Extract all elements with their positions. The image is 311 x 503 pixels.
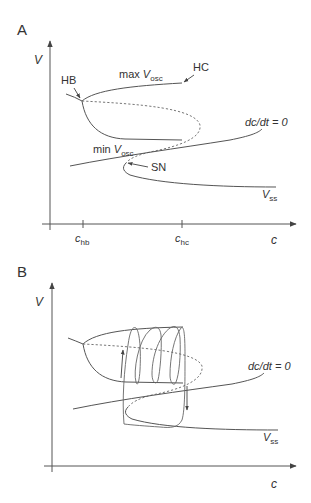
max-vosc-label: max Vosc: [119, 68, 163, 83]
panel-b: B V c dc/dt = 0 Vss: [17, 263, 296, 491]
hb-label: HB: [61, 74, 76, 86]
vss-label-b: Vss: [263, 431, 278, 446]
min-vosc-curve: [82, 101, 182, 140]
nullcline-label-b: dc/dt = 0: [248, 360, 291, 372]
max-vosc-curve: [82, 83, 182, 101]
sn-label: SN: [151, 161, 166, 173]
panel-label-b: B: [17, 263, 27, 280]
y-axis-label-a: V: [34, 53, 43, 67]
min-vosc-label: min Vosc: [93, 143, 134, 158]
vss-label-a: Vss: [262, 188, 277, 203]
trajectory-up-arrow: [121, 350, 123, 378]
nullcline-label-a: dc/dt = 0: [245, 116, 288, 128]
sn-arrow: [128, 163, 148, 167]
hc-label: HC: [193, 61, 209, 73]
tick-label-chc: chc: [175, 232, 189, 247]
tick-label-chb: chb: [75, 232, 90, 247]
x-axis-label-b: c: [271, 477, 277, 491]
hc-arrow: [184, 75, 194, 82]
y-axis-label-b: V: [35, 295, 44, 309]
min-vosc-curve-b: [83, 344, 183, 383]
panel-a: A V c chb chc HB HC SN max Vosc: [17, 21, 296, 247]
bursting-trajectory: [123, 326, 185, 427]
x-axis-label-a: c: [271, 233, 277, 247]
hb-arrow: [74, 88, 80, 98]
panel-label-a: A: [17, 21, 27, 38]
bifurcation-figure: A V c chb chc HB HC SN max Vosc: [0, 0, 311, 503]
upper-stable-branch-b: [68, 338, 83, 344]
